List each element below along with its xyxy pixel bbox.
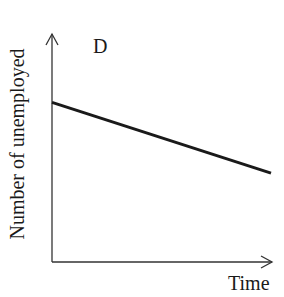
chart-title: D — [93, 35, 107, 57]
x-axis-label: Time — [228, 272, 270, 294]
y-axis — [46, 34, 58, 262]
data-line — [52, 102, 271, 173]
y-axis-label: Number of unemployed — [6, 48, 29, 239]
x-axis — [52, 256, 272, 268]
chart-container: D Time Number of unemployed — [0, 0, 284, 297]
